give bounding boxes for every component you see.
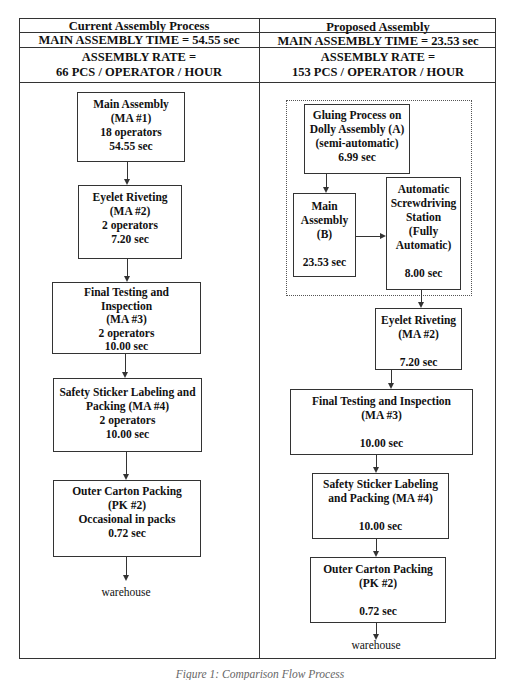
proposed-rate-label: ASSEMBLY RATE = (260, 50, 496, 64)
arrow-line (126, 452, 127, 474)
current-warehouse-label: warehouse (86, 586, 166, 598)
arrow-line (391, 370, 392, 383)
current-step-safety-sticker: Safety Sticker Labeling and Packing (MA … (53, 378, 202, 452)
proposed-step-safety-sticker: Safety Sticker Labeling and Packing (MA … (312, 473, 449, 539)
current-step-main-assembly: Main Assembly (MA #1) 18 operators 54.55… (77, 92, 185, 162)
proposed-step-screwdriving: Automatic Screwdriving Station (Fully Au… (386, 177, 461, 290)
arrow-line (421, 290, 422, 302)
proposed-title: Proposed Assembly (260, 20, 496, 34)
current-step-final-testing: Final Testing and Inspection (MA #3) 2 o… (52, 282, 201, 354)
arrow-line (125, 354, 126, 372)
arrow-line (356, 236, 380, 237)
current-rate-value: 66 PCS / OPERATOR / HOUR (19, 65, 259, 79)
arrow-line (376, 623, 377, 634)
arrow-line (326, 174, 327, 187)
current-step-outer-carton: Outer Carton Packing (PK #2) Occasional … (53, 480, 201, 557)
column-divider (259, 18, 260, 659)
current-step-eyelet-riveting: Eyelet Riveting (MA #2) 2 operators 7.20… (78, 185, 182, 259)
row-divider-3 (19, 82, 496, 83)
proposed-step-eyelet-riveting: Eyelet Riveting (MA #2) 7.20 sec (375, 308, 462, 370)
proposed-warehouse-label: warehouse (336, 639, 416, 651)
proposed-step-main-assembly-b: Main Assembly (B) 23.53 sec (293, 193, 356, 277)
proposed-rate-value: 153 PCS / OPERATOR / HOUR (260, 65, 496, 79)
current-rate-label: ASSEMBLY RATE = (19, 50, 259, 64)
arrow-line (376, 455, 377, 467)
arrow-line (127, 162, 128, 179)
figure-caption: Figure 1: Comparison Flow Process (150, 668, 370, 680)
arrow-line (376, 539, 377, 551)
arrow-down-icon (123, 575, 129, 581)
arrow-line (126, 557, 127, 575)
proposed-step-final-testing: Final Testing and Inspection (MA #3) 10.… (290, 389, 473, 455)
proposed-step-gluing: Gluing Process on Dolly Assembly (A) (se… (304, 104, 410, 174)
proposed-main-time: MAIN ASSEMBLY TIME = 23.53 sec (260, 34, 496, 48)
current-title: Current Assembly Process (19, 19, 259, 33)
proposed-step-outer-carton: Outer Carton Packing (PK #2) 0.72 sec (310, 557, 446, 623)
current-main-time: MAIN ASSEMBLY TIME = 54.55 sec (19, 33, 259, 47)
arrow-line (127, 259, 128, 276)
